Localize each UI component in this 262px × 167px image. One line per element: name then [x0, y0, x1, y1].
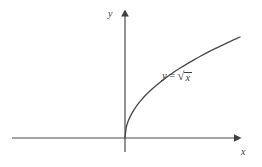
radical-expression: √ x: [178, 71, 192, 84]
equation-equals-sign: =: [169, 71, 175, 82]
x-axis-arrowhead: [234, 134, 242, 142]
x-axis-label: x: [241, 147, 245, 157]
x-axis: [12, 134, 242, 142]
y-axis-label: y: [108, 9, 112, 19]
y-axis-arrowhead: [121, 10, 129, 17]
square-root-function-graph: y x y = √ x: [0, 0, 262, 167]
y-axis: [121, 10, 129, 153]
radicand: x: [184, 72, 191, 84]
curve-equation-label: y = √ x: [162, 71, 192, 84]
equation-lhs: y: [162, 71, 167, 82]
radical-sign-icon: √: [178, 71, 185, 82]
sqrt-curve: [125, 37, 240, 138]
plot-area: [0, 0, 262, 167]
